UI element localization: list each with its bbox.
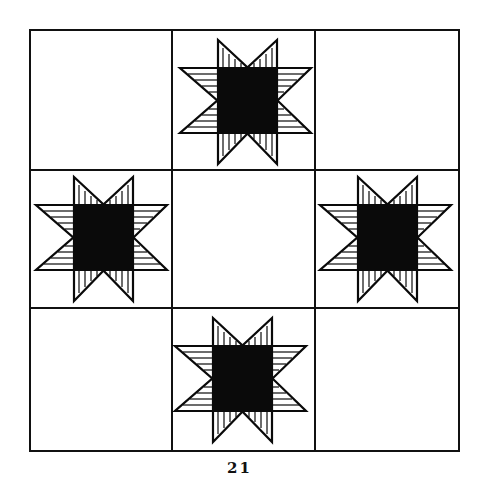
star-top-center (180, 40, 311, 164)
star-middle-right (320, 177, 451, 301)
quilt-block-diagram (0, 0, 479, 482)
figure-number: 21 (0, 459, 479, 477)
star-middle-left (36, 177, 167, 301)
star-bottom-center (175, 318, 306, 442)
